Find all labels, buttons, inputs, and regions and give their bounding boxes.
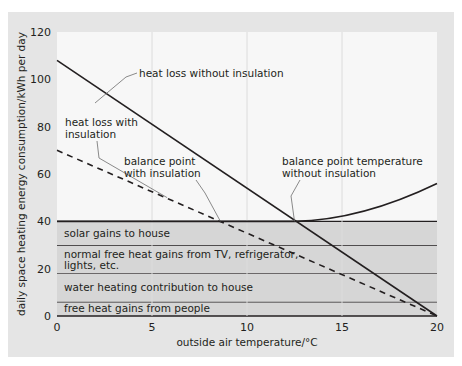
x-tick-label: 15: [335, 321, 349, 334]
band-label-water: water heating contribution to house: [64, 281, 253, 293]
annotation-balance-point-with-insulation-line2: with insulation: [124, 167, 201, 179]
band-label-solar: solar gains to house: [64, 227, 170, 239]
annotation-heat-loss-with-insulation-line2: insulation: [65, 128, 116, 140]
y-tick-label: 20: [37, 263, 51, 276]
x-tick-label: 0: [54, 321, 61, 334]
band-label-appliances-line2: lights, etc.: [64, 259, 119, 271]
x-tick-label: 10: [240, 321, 254, 334]
y-tick-label: 40: [37, 215, 51, 228]
chart: 02040608010012005101520 solar gains to h…: [0, 0, 462, 366]
x-tick-label: 20: [430, 321, 444, 334]
annotation-balance-point-with-insulation-line1: balance point: [124, 155, 195, 167]
y-tick-label: 80: [37, 121, 51, 134]
annotation-balance-point-without-insulation-line1: balance point temperature: [282, 155, 423, 167]
y-tick-label: 60: [37, 168, 51, 181]
y-tick-label: 100: [30, 73, 51, 86]
y-tick-label: 120: [30, 26, 51, 39]
annotation-heat-loss-with-insulation-line1: heat loss with: [65, 116, 138, 128]
band-label-people: free heat gains from people: [64, 302, 210, 314]
x-tick-label: 5: [149, 321, 156, 334]
chart-canvas: 02040608010012005101520 solar gains to h…: [0, 0, 462, 366]
annotation-heat-loss-without-insulation: heat loss without insulation: [139, 67, 284, 79]
y-tick-label: 0: [44, 310, 51, 323]
y-axis-title: daily space heating energy consumption/k…: [15, 32, 27, 316]
annotation-balance-point-without-insulation-line2: without insulation: [282, 167, 376, 179]
x-axis-title: outside air temperature/°C: [176, 336, 317, 348]
